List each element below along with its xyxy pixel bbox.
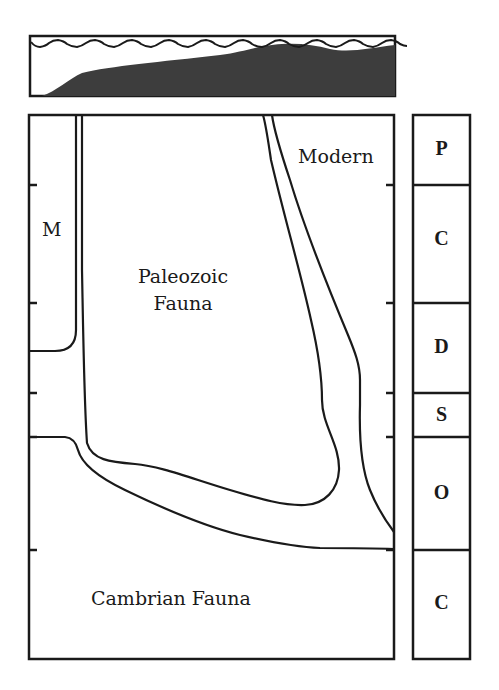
modern-fauna-label: Modern (298, 145, 374, 167)
period-label-carboniferous: C (413, 227, 470, 250)
cambrian-fauna-label: Cambrian Fauna (91, 587, 251, 609)
paleozoic-fauna-label-line1: Paleozoic (138, 263, 228, 290)
fauna-diagram (29, 115, 394, 659)
seafloor-inset (30, 36, 407, 96)
period-label-permian: P (413, 137, 470, 160)
period-label-silurian: S (413, 403, 470, 426)
period-label-cambrian: C (413, 591, 470, 614)
period-label-devonian: D (413, 335, 470, 358)
m-fauna-label: M (42, 218, 61, 240)
paleozoic-fauna-label-line2: Fauna (153, 290, 212, 317)
period-column (413, 115, 470, 659)
period-label-ordovician: O (413, 481, 470, 504)
